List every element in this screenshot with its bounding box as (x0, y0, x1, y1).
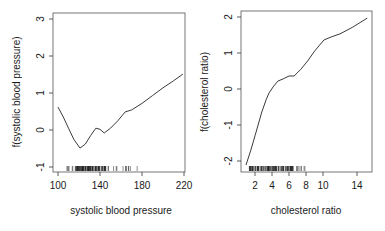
x-tick-label: 140 (92, 180, 109, 191)
y-tick-label: -2 (223, 156, 234, 165)
figure: -10123 100140180220 systolic blood press… (0, 0, 385, 231)
y-tick-label: 1 (223, 50, 234, 56)
rug-marks-left (67, 166, 137, 171)
x-tick-label: 180 (134, 180, 151, 191)
y-tick-label: 2 (35, 53, 46, 59)
x-tick-label: 14 (351, 180, 363, 191)
y-axis-label-left: f(systolic blood pressure) (11, 36, 22, 147)
smooth-curve-systolic (58, 74, 183, 148)
x-axis-label-left: systolic blood pressure (70, 205, 172, 216)
x-axis-right: 24681014 (252, 172, 363, 191)
y-tick-label: 1 (35, 90, 46, 96)
x-tick-label: 100 (50, 180, 67, 191)
rug-marks-right (249, 166, 304, 171)
plot-frame-right (241, 11, 372, 172)
smooth-curve-cholesterol (246, 18, 367, 165)
x-tick-label: 8 (303, 180, 309, 191)
x-tick-label: 10 (317, 180, 329, 191)
x-axis-label-right: cholesterol ratio (271, 205, 342, 216)
x-tick-label: 2 (252, 180, 258, 191)
x-tick-label: 4 (269, 180, 275, 191)
y-tick-label: 0 (223, 86, 234, 92)
plot-frame-left (53, 13, 185, 172)
y-axis-right: -2-1012 (223, 14, 241, 166)
panel-systolic-blood-pressure: -10123 100140180220 systolic blood press… (11, 13, 193, 216)
y-axis-left: -10123 (35, 16, 53, 172)
x-axis-left: 100140180220 (50, 172, 193, 191)
x-tick-label: 220 (176, 180, 193, 191)
y-tick-label: -1 (35, 162, 46, 171)
y-tick-label: 0 (35, 127, 46, 133)
x-tick-label: 6 (286, 180, 292, 191)
y-tick-label: 2 (223, 14, 234, 20)
y-tick-label: 3 (35, 16, 46, 22)
y-tick-label: -1 (223, 120, 234, 129)
y-axis-label-right: f(cholesterol ratio) (199, 52, 210, 132)
panel-cholesterol-ratio: -2-1012 24681014 cholesterol ratio f(cho… (199, 11, 372, 216)
